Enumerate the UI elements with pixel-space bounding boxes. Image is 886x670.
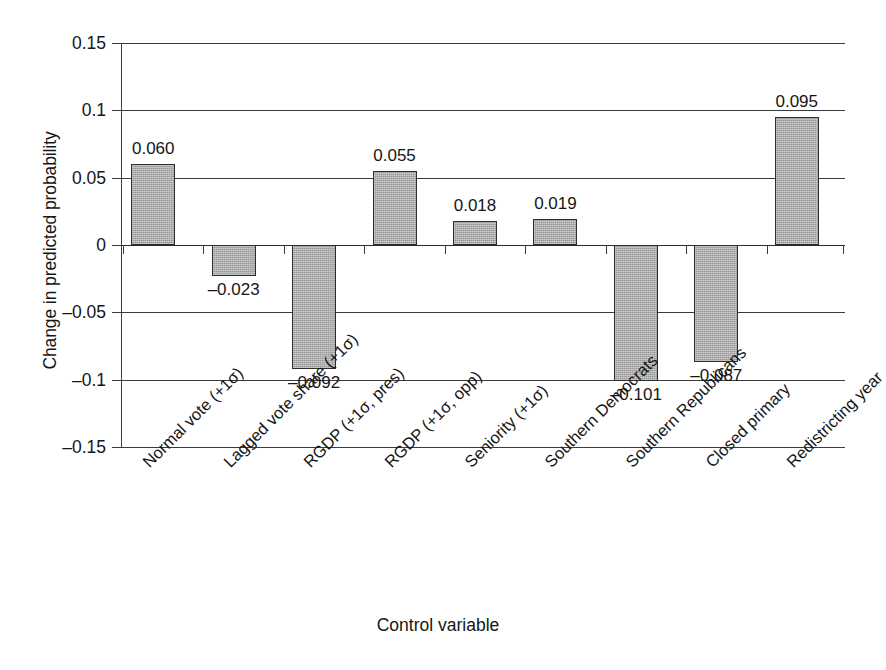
bar-value-label: 0.060 <box>103 139 203 159</box>
y-axis-tick: 0.1 <box>112 110 121 111</box>
y-axis-tick-label: –0.15 <box>62 437 106 458</box>
bar <box>373 171 417 245</box>
bar <box>533 219 577 245</box>
y-axis-tick: 0.15 <box>112 43 121 44</box>
y-axis-tick: –0.05 <box>112 312 121 313</box>
x-axis-tick <box>445 245 446 254</box>
y-axis-tick-label: –0.05 <box>62 302 106 323</box>
x-axis-tick <box>525 245 526 254</box>
y-axis-tick-label: –0.1 <box>72 370 106 391</box>
x-axis-title: Control variable <box>0 615 876 636</box>
gridline <box>121 43 845 44</box>
y-axis-tick: –0.15 <box>112 447 121 448</box>
bar <box>775 117 819 245</box>
y-axis-tick-label: 0.1 <box>82 100 106 121</box>
x-axis-tick <box>203 245 204 254</box>
y-axis-tick-label: 0.05 <box>72 168 106 189</box>
bar <box>694 245 738 362</box>
x-axis-tick <box>284 245 285 254</box>
y-axis-tick: 0.05 <box>112 178 121 179</box>
bar-value-label: –0.023 <box>184 280 284 300</box>
y-axis-tick: –0.1 <box>112 380 121 381</box>
bar-value-label: 0.055 <box>345 146 445 166</box>
x-axis-tick <box>364 245 365 254</box>
bar-value-label: 0.095 <box>747 92 847 112</box>
bar-value-label: 0.019 <box>505 194 605 214</box>
y-axis-tick-label: 0 <box>96 235 106 256</box>
bar <box>212 245 256 276</box>
x-axis-tick <box>767 245 768 254</box>
x-axis-tick <box>843 245 844 254</box>
bar <box>453 221 497 245</box>
y-axis-tick-label: 0.15 <box>72 33 106 54</box>
x-axis-tick <box>123 245 124 254</box>
gridline <box>121 178 845 179</box>
x-axis-tick <box>606 245 607 254</box>
x-axis-tick <box>686 245 687 254</box>
y-axis-title: Change in predicted probability <box>40 41 61 461</box>
bar <box>131 164 175 245</box>
gridline <box>121 110 845 111</box>
y-axis-tick: 0 <box>112 245 121 246</box>
